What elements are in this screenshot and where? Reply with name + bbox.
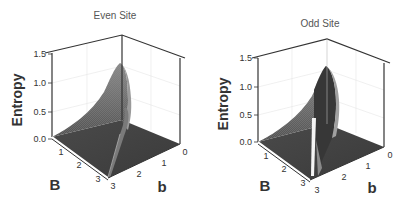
svg-text:2: 2 xyxy=(341,172,346,182)
svg-text:1.5: 1.5 xyxy=(239,53,252,63)
svg-text:2: 2 xyxy=(76,160,81,170)
even-site-title: Even Site xyxy=(94,10,137,21)
svg-text:1.0: 1.0 xyxy=(239,82,252,92)
svg-text:2: 2 xyxy=(281,164,286,174)
svg-text:0.5: 0.5 xyxy=(239,110,252,120)
even-z-ticks: 1.5 1.0 0.5 0.0 xyxy=(33,49,52,144)
even-frame xyxy=(45,35,185,58)
svg-text:0.0: 0.0 xyxy=(33,134,46,144)
svg-text:1: 1 xyxy=(365,161,370,171)
odd-site-plot: Odd Site 1.5 xyxy=(215,18,393,196)
svg-text:0.5: 0.5 xyxy=(33,107,46,117)
svg-text:1: 1 xyxy=(58,147,63,157)
odd-z-axis-label: Entropy xyxy=(215,77,231,130)
odd-site-title: Odd Site xyxy=(301,18,340,29)
odd-z-ticks: 1.5 1.0 0.5 0.0 xyxy=(239,53,258,147)
svg-text:1: 1 xyxy=(263,151,268,161)
odd-b-axis-label: b xyxy=(367,179,376,196)
svg-text:1.5: 1.5 xyxy=(33,49,46,59)
svg-text:0: 0 xyxy=(387,150,392,160)
svg-text:0: 0 xyxy=(182,147,187,157)
svg-text:1: 1 xyxy=(161,158,166,168)
svg-text:3: 3 xyxy=(314,185,319,195)
figure: Even Site xyxy=(0,0,404,199)
odd-B-axis-label: B xyxy=(260,177,271,194)
svg-text:2: 2 xyxy=(136,169,141,179)
even-z-axis-label: Entropy xyxy=(9,73,25,126)
svg-text:0.0: 0.0 xyxy=(239,137,252,147)
svg-text:3: 3 xyxy=(95,174,100,184)
svg-text:1.0: 1.0 xyxy=(33,78,46,88)
even-B-axis-label: B xyxy=(50,176,61,193)
svg-text:3: 3 xyxy=(110,181,115,191)
odd-frame xyxy=(252,39,390,63)
svg-text:3: 3 xyxy=(300,178,305,188)
even-b-axis-label: b xyxy=(157,178,166,195)
even-site-plot: Even Site xyxy=(9,10,188,195)
